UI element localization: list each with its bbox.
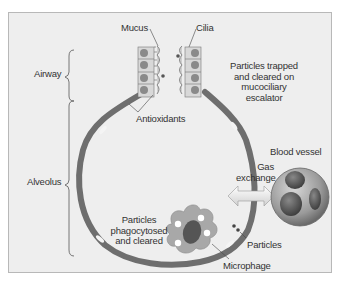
gas-exchange-arrow [228,186,274,206]
escalator-line-1: Particles trapped [224,61,304,72]
alveolus-illustration [0,0,355,290]
particles [232,224,240,232]
alveolus-brace [65,101,74,256]
antioxidants-label: Antioxidants [136,114,185,125]
mucociliary-escalator-label: Particles trapped and cleared on mucocil… [224,61,304,103]
right-epithelium [176,46,201,97]
macrophage-label: Microphage [223,261,271,272]
escalator-line-4: escalator [224,93,304,104]
blood-vessel [271,168,329,226]
alveolus-label: Alveolus [27,177,61,188]
cilia-leader [189,29,196,47]
gas-line-2: exchange [236,173,274,184]
phago-line-3: and cleared [108,236,170,247]
left-epithelium [138,46,165,97]
cilia-label: Cilia [196,23,213,34]
mucus-label: Mucus [121,23,148,34]
gas-exchange-label: Gas exchange [236,162,274,183]
macrophage [166,205,217,253]
blood-vessel-label: Blood vessel [270,147,321,158]
gas-line-1: Gas [236,162,274,173]
escalator-line-3: mucociliary [224,82,304,93]
particles-label: Particles [247,240,282,251]
airway-label: Airway [34,69,61,80]
phagocytosed-label: Particles phagocytosed and cleared [108,215,170,247]
airway-brace [65,50,74,101]
mucus-leader [150,29,158,46]
phago-line-1: Particles [108,215,170,226]
